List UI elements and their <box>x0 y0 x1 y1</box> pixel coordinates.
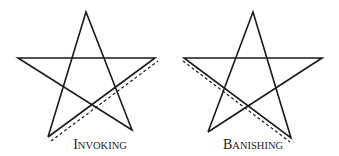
invoking-label: INVOKING <box>73 137 127 152</box>
banishing-star-outline <box>184 12 322 138</box>
invoking-pentagram <box>18 12 158 141</box>
banishing-label: BANISHING <box>223 137 284 152</box>
banishing-pentagram <box>183 12 322 142</box>
invoking-star-outline <box>18 12 155 137</box>
pentagram-diagram: INVOKING BANISHING <box>0 0 339 156</box>
banishing-dashed-stroke <box>183 61 290 142</box>
